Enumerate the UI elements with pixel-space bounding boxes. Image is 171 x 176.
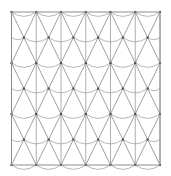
lattice-node — [35, 113, 37, 115]
lattice-node — [23, 138, 25, 140]
lattice-node — [60, 113, 62, 115]
lattice-node — [72, 138, 74, 140]
lattice-node — [147, 87, 149, 89]
lattice-node — [122, 36, 124, 38]
lattice-node — [48, 36, 50, 38]
lattice-figure — [0, 0, 171, 176]
lattice-node — [48, 87, 50, 89]
lattice-node — [85, 113, 87, 115]
lattice-node — [60, 62, 62, 64]
lattice-node — [23, 87, 25, 89]
lattice-node — [48, 138, 50, 140]
lattice-node — [97, 87, 99, 89]
lattice-node — [122, 138, 124, 140]
lattice-node — [134, 62, 136, 64]
lattice-diagram-canvas — [0, 0, 171, 176]
lattice-node — [97, 36, 99, 38]
lattice-node — [85, 62, 87, 64]
lattice-node — [147, 36, 149, 38]
lattice-node — [97, 138, 99, 140]
lattice-node — [72, 36, 74, 38]
lattice-node — [23, 36, 25, 38]
lattice-node — [109, 113, 111, 115]
lattice-node — [72, 87, 74, 89]
lattice-node — [122, 87, 124, 89]
lattice-node — [109, 62, 111, 64]
lattice-node — [35, 62, 37, 64]
lattice-node — [147, 138, 149, 140]
lattice-node — [134, 113, 136, 115]
